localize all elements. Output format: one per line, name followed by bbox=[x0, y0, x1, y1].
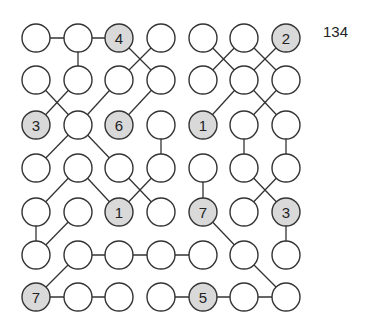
island-circle[interactable] bbox=[22, 198, 50, 226]
island-circle[interactable] bbox=[230, 198, 258, 226]
island-empty[interactable] bbox=[105, 154, 133, 182]
island-empty[interactable] bbox=[64, 111, 92, 139]
island-circle[interactable] bbox=[272, 154, 300, 182]
island-empty[interactable] bbox=[22, 154, 50, 182]
island-circle[interactable] bbox=[105, 154, 133, 182]
island-number: 7 bbox=[32, 289, 40, 306]
island-circle[interactable] bbox=[230, 66, 258, 94]
island-empty[interactable] bbox=[272, 241, 300, 269]
island-circle[interactable] bbox=[22, 66, 50, 94]
island-circle[interactable] bbox=[64, 198, 92, 226]
island-circle[interactable] bbox=[147, 66, 175, 94]
island-empty[interactable] bbox=[230, 66, 258, 94]
island-empty[interactable] bbox=[189, 154, 217, 182]
island-given[interactable]: 3 bbox=[272, 198, 300, 226]
island-given[interactable]: 3 bbox=[22, 111, 50, 139]
hashi-puzzle-board: 4236117375 bbox=[0, 0, 368, 325]
island-circle[interactable] bbox=[189, 24, 217, 52]
island-empty[interactable] bbox=[22, 24, 50, 52]
island-empty[interactable] bbox=[64, 283, 92, 311]
island-nodes: 4236117375 bbox=[22, 24, 300, 311]
island-empty[interactable] bbox=[64, 198, 92, 226]
island-empty[interactable] bbox=[147, 198, 175, 226]
island-circle[interactable] bbox=[64, 154, 92, 182]
island-circle[interactable] bbox=[272, 111, 300, 139]
island-circle[interactable] bbox=[105, 283, 133, 311]
island-circle[interactable] bbox=[230, 283, 258, 311]
island-number: 1 bbox=[199, 117, 207, 134]
island-number: 1 bbox=[115, 204, 123, 221]
island-given[interactable]: 1 bbox=[105, 198, 133, 226]
island-given[interactable]: 1 bbox=[189, 111, 217, 139]
island-given[interactable]: 7 bbox=[189, 198, 217, 226]
island-empty[interactable] bbox=[272, 154, 300, 182]
island-empty[interactable] bbox=[64, 66, 92, 94]
island-circle[interactable] bbox=[147, 283, 175, 311]
island-circle[interactable] bbox=[189, 241, 217, 269]
island-empty[interactable] bbox=[230, 154, 258, 182]
island-circle[interactable] bbox=[64, 24, 92, 52]
island-empty[interactable] bbox=[230, 283, 258, 311]
island-empty[interactable] bbox=[230, 241, 258, 269]
island-circle[interactable] bbox=[105, 66, 133, 94]
island-circle[interactable] bbox=[22, 154, 50, 182]
island-empty[interactable] bbox=[147, 24, 175, 52]
puzzle-number: 134 bbox=[323, 23, 348, 40]
island-circle[interactable] bbox=[22, 24, 50, 52]
island-number: 3 bbox=[32, 117, 40, 134]
island-circle[interactable] bbox=[189, 66, 217, 94]
island-empty[interactable] bbox=[64, 154, 92, 182]
island-empty[interactable] bbox=[147, 111, 175, 139]
island-circle[interactable] bbox=[64, 111, 92, 139]
island-empty[interactable] bbox=[189, 66, 217, 94]
island-circle[interactable] bbox=[230, 111, 258, 139]
island-empty[interactable] bbox=[147, 66, 175, 94]
island-empty[interactable] bbox=[230, 198, 258, 226]
island-circle[interactable] bbox=[230, 24, 258, 52]
island-circle[interactable] bbox=[22, 241, 50, 269]
island-given[interactable]: 6 bbox=[105, 111, 133, 139]
island-empty[interactable] bbox=[105, 66, 133, 94]
island-number: 5 bbox=[199, 289, 207, 306]
island-number: 4 bbox=[115, 30, 123, 47]
island-empty[interactable] bbox=[230, 111, 258, 139]
island-circle[interactable] bbox=[272, 241, 300, 269]
island-empty[interactable] bbox=[105, 241, 133, 269]
island-circle[interactable] bbox=[64, 241, 92, 269]
island-circle[interactable] bbox=[272, 283, 300, 311]
island-empty[interactable] bbox=[22, 66, 50, 94]
island-circle[interactable] bbox=[147, 111, 175, 139]
island-circle[interactable] bbox=[272, 66, 300, 94]
island-circle[interactable] bbox=[230, 241, 258, 269]
island-circle[interactable] bbox=[189, 154, 217, 182]
island-given[interactable]: 4 bbox=[105, 24, 133, 52]
island-number: 3 bbox=[282, 204, 290, 221]
island-empty[interactable] bbox=[105, 283, 133, 311]
island-empty[interactable] bbox=[147, 154, 175, 182]
island-empty[interactable] bbox=[147, 283, 175, 311]
island-empty[interactable] bbox=[64, 241, 92, 269]
island-circle[interactable] bbox=[64, 66, 92, 94]
island-circle[interactable] bbox=[147, 241, 175, 269]
island-given[interactable]: 5 bbox=[189, 283, 217, 311]
island-empty[interactable] bbox=[147, 241, 175, 269]
island-empty[interactable] bbox=[189, 241, 217, 269]
island-empty[interactable] bbox=[189, 24, 217, 52]
island-empty[interactable] bbox=[22, 198, 50, 226]
island-empty[interactable] bbox=[230, 24, 258, 52]
island-empty[interactable] bbox=[22, 241, 50, 269]
island-empty[interactable] bbox=[272, 111, 300, 139]
island-given[interactable]: 2 bbox=[272, 24, 300, 52]
island-empty[interactable] bbox=[64, 24, 92, 52]
island-number: 2 bbox=[282, 30, 290, 47]
island-circle[interactable] bbox=[147, 198, 175, 226]
island-empty[interactable] bbox=[272, 66, 300, 94]
island-given[interactable]: 7 bbox=[22, 283, 50, 311]
island-circle[interactable] bbox=[64, 283, 92, 311]
island-number: 6 bbox=[115, 117, 123, 134]
island-circle[interactable] bbox=[147, 154, 175, 182]
island-circle[interactable] bbox=[147, 24, 175, 52]
island-empty[interactable] bbox=[272, 283, 300, 311]
island-circle[interactable] bbox=[105, 241, 133, 269]
island-circle[interactable] bbox=[230, 154, 258, 182]
